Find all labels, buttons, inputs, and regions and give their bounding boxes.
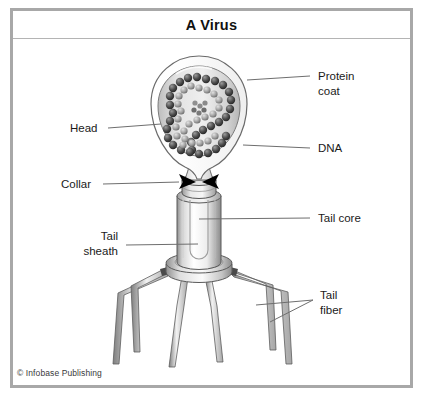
label-protein-coat-line1: Protein xyxy=(318,70,354,82)
label-protein-coat-line2: coat xyxy=(318,85,341,97)
dna-strand xyxy=(163,73,235,158)
label-collar: Collar xyxy=(61,178,91,190)
tail-fiber xyxy=(228,268,276,350)
virus-diagram-figure: A Virus xyxy=(0,0,440,410)
leader-dna xyxy=(243,145,310,148)
label-head: Head xyxy=(70,122,98,134)
tail-fiber xyxy=(131,268,170,352)
label-tail-core: Tail core xyxy=(318,212,361,224)
virus-illustration: Protein coat DNA Tail core Tail fiber He… xyxy=(0,0,440,410)
label-dna: DNA xyxy=(318,142,343,154)
label-tail-sheath-line2: sheath xyxy=(83,245,118,257)
tail-sheath xyxy=(177,189,221,270)
copyright-credit: © Infobase Publishing xyxy=(17,368,102,378)
label-tail-sheath-line1: Tail xyxy=(101,230,118,242)
leader-protein-coat xyxy=(247,76,310,80)
label-tail-fiber-line1: Tail xyxy=(320,289,337,301)
tail-fiber xyxy=(169,276,188,367)
tail-fiber xyxy=(230,273,292,364)
leader-collar xyxy=(103,182,179,184)
leader-head xyxy=(108,124,161,128)
label-tail-fiber-line2: fiber xyxy=(320,304,343,316)
tail-fiber xyxy=(205,276,223,362)
